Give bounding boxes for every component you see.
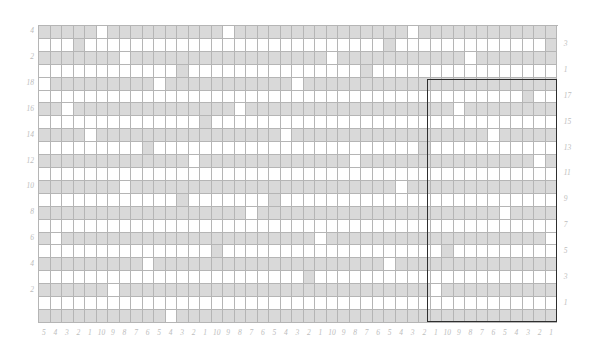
chart-cell[interactable] — [523, 207, 535, 220]
chart-cell[interactable] — [511, 155, 523, 168]
chart-cell[interactable] — [546, 116, 558, 129]
chart-cell[interactable] — [281, 245, 293, 258]
chart-cell[interactable] — [166, 142, 178, 155]
chart-cell[interactable] — [419, 155, 431, 168]
chart-cell[interactable] — [292, 26, 304, 39]
chart-cell[interactable] — [454, 78, 466, 91]
chart-cell[interactable] — [431, 26, 443, 39]
chart-cell[interactable] — [51, 258, 63, 271]
chart-cell[interactable] — [292, 271, 304, 284]
chart-cell[interactable] — [488, 207, 500, 220]
chart-cell[interactable] — [465, 310, 477, 323]
chart-cell[interactable] — [39, 233, 51, 246]
chart-cell[interactable] — [465, 284, 477, 297]
chart-cell[interactable] — [384, 310, 396, 323]
chart-cell[interactable] — [315, 258, 327, 271]
chart-cell[interactable] — [51, 297, 63, 310]
chart-cell[interactable] — [74, 220, 86, 233]
chart-cell[interactable] — [350, 26, 362, 39]
chart-cell[interactable] — [108, 116, 120, 129]
chart-cell[interactable] — [223, 52, 235, 65]
chart-cell[interactable] — [304, 258, 316, 271]
chart-cell[interactable] — [511, 181, 523, 194]
chart-cell[interactable] — [143, 310, 155, 323]
chart-cell[interactable] — [189, 52, 201, 65]
chart-cell[interactable] — [200, 65, 212, 78]
chart-cell[interactable] — [419, 168, 431, 181]
chart-cell[interactable] — [546, 142, 558, 155]
chart-cell[interactable] — [431, 39, 443, 52]
chart-cell[interactable] — [431, 297, 443, 310]
chart-cell[interactable] — [442, 245, 454, 258]
chart-cell[interactable] — [62, 116, 74, 129]
chart-cell[interactable] — [534, 142, 546, 155]
chart-cell[interactable] — [166, 194, 178, 207]
chart-cell[interactable] — [477, 310, 489, 323]
chart-cell[interactable] — [304, 284, 316, 297]
chart-cell[interactable] — [304, 91, 316, 104]
chart-cell[interactable] — [85, 258, 97, 271]
chart-cell[interactable] — [523, 65, 535, 78]
chart-cell[interactable] — [500, 155, 512, 168]
chart-cell[interactable] — [108, 103, 120, 116]
chart-cell[interactable] — [235, 103, 247, 116]
chart-cell[interactable] — [500, 52, 512, 65]
chart-cell[interactable] — [361, 181, 373, 194]
chart-cell[interactable] — [327, 142, 339, 155]
chart-cell[interactable] — [534, 258, 546, 271]
chart-cell[interactable] — [396, 39, 408, 52]
chart-cell[interactable] — [85, 220, 97, 233]
chart-cell[interactable] — [223, 155, 235, 168]
chart-cell[interactable] — [523, 284, 535, 297]
chart-cell[interactable] — [338, 284, 350, 297]
chart-cell[interactable] — [143, 39, 155, 52]
chart-cell[interactable] — [431, 78, 443, 91]
chart-cell[interactable] — [373, 297, 385, 310]
chart-cell[interactable] — [292, 142, 304, 155]
chart-cell[interactable] — [304, 155, 316, 168]
chart-cell[interactable] — [62, 181, 74, 194]
chart-cell[interactable] — [223, 78, 235, 91]
chart-cell[interactable] — [315, 271, 327, 284]
chart-cell[interactable] — [235, 220, 247, 233]
chart-cell[interactable] — [454, 26, 466, 39]
chart-cell[interactable] — [500, 116, 512, 129]
chart-cell[interactable] — [281, 78, 293, 91]
chart-cell[interactable] — [327, 65, 339, 78]
chart-cell[interactable] — [442, 258, 454, 271]
chart-cell[interactable] — [143, 116, 155, 129]
chart-cell[interactable] — [120, 26, 132, 39]
chart-cell[interactable] — [315, 297, 327, 310]
chart-cell[interactable] — [327, 220, 339, 233]
chart-cell[interactable] — [189, 194, 201, 207]
chart-cell[interactable] — [500, 220, 512, 233]
chart-cell[interactable] — [315, 116, 327, 129]
chart-cell[interactable] — [419, 52, 431, 65]
chart-cell[interactable] — [108, 310, 120, 323]
chart-cell[interactable] — [85, 271, 97, 284]
chart-cell[interactable] — [546, 258, 558, 271]
chart-cell[interactable] — [189, 26, 201, 39]
chart-cell[interactable] — [235, 52, 247, 65]
chart-cell[interactable] — [97, 52, 109, 65]
chart-cell[interactable] — [327, 78, 339, 91]
chart-cell[interactable] — [189, 310, 201, 323]
chart-cell[interactable] — [74, 65, 86, 78]
chart-cell[interactable] — [39, 194, 51, 207]
chart-cell[interactable] — [488, 245, 500, 258]
chart-cell[interactable] — [396, 155, 408, 168]
chart-cell[interactable] — [373, 310, 385, 323]
chart-cell[interactable] — [120, 297, 132, 310]
chart-cell[interactable] — [223, 65, 235, 78]
chart-cell[interactable] — [131, 194, 143, 207]
chart-cell[interactable] — [246, 207, 258, 220]
chart-cell[interactable] — [62, 155, 74, 168]
chart-cell[interactable] — [85, 168, 97, 181]
chart-cell[interactable] — [281, 103, 293, 116]
chart-cell[interactable] — [431, 65, 443, 78]
chart-cell[interactable] — [212, 194, 224, 207]
chart-cell[interactable] — [235, 245, 247, 258]
chart-cell[interactable] — [534, 26, 546, 39]
chart-cell[interactable] — [454, 233, 466, 246]
chart-cell[interactable] — [154, 297, 166, 310]
